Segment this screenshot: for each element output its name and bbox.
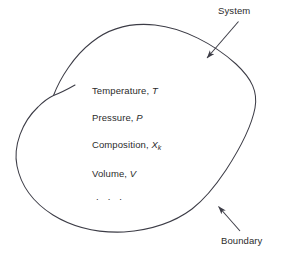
property-volume: Volume, V <box>92 169 232 179</box>
property-temperature-label: Temperature, <box>92 85 149 96</box>
property-ellipsis: . . . <box>96 192 125 202</box>
boundary-callout-label: Boundary <box>221 236 262 246</box>
property-volume-label: Volume, <box>92 168 127 179</box>
system-leader-arrow <box>207 22 239 59</box>
property-composition-subscript: k <box>158 144 162 151</box>
system-property-list: Temperature, T Pressure, P Composition, … <box>92 86 232 196</box>
property-composition: Composition, Xk <box>92 140 232 151</box>
boundary-leader-arrow <box>219 207 241 232</box>
property-pressure-symbol: P <box>136 112 142 123</box>
system-callout-label: System <box>218 6 250 16</box>
system-boundary-diagram: Temperature, T Pressure, P Composition, … <box>0 0 281 258</box>
property-temperature-symbol: T <box>152 85 158 96</box>
property-temperature: Temperature, T <box>92 86 232 96</box>
property-pressure: Pressure, P <box>92 113 232 123</box>
property-volume-symbol: V <box>130 168 136 179</box>
property-composition-label: Composition, <box>92 139 149 150</box>
property-pressure-label: Pressure, <box>92 112 134 123</box>
